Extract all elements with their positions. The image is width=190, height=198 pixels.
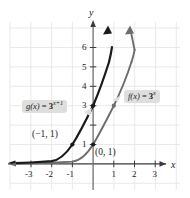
g-function-callout: g(x) = 3x+1 (22, 100, 67, 113)
x-axis-label: x (171, 160, 175, 170)
y-tick-label-6: 6 (82, 43, 87, 52)
f-function-callout: f(x) = 3x (124, 90, 160, 103)
x-tick-label-neg3: -3 (25, 170, 33, 179)
g-callout-eq: = (40, 101, 49, 111)
x-tick-label-neg1: -1 (67, 170, 75, 179)
exponential-functions-graph: -3 -2 -1 1 2 3 6 5 4 3 1 y x (−1, 1) (0,… (0, 0, 190, 198)
f-callout-eq: = (140, 91, 149, 101)
point-marker-f (91, 142, 95, 146)
point-label-neg1-1: (−1, 1) (32, 130, 58, 140)
point-marker-g (70, 142, 74, 146)
g-callout-exp: x+1 (53, 99, 63, 106)
x-tick-label-2: 2 (132, 170, 137, 179)
x-axis-arrow (160, 161, 167, 167)
curve-g-arrow (103, 26, 112, 35)
y-tick-label-5: 5 (82, 63, 87, 72)
f-callout-fn: f(x) (128, 91, 140, 101)
y-tick-label-1: 1 (82, 140, 87, 149)
y-axis-arrow (90, 20, 96, 27)
x-tick-label-1: 1 (112, 170, 117, 179)
x-tick-label-3: 3 (153, 170, 158, 179)
point-label-0-1: (0, 1) (95, 148, 116, 158)
curve-f-arrow (125, 26, 134, 35)
g-callout-fn: g(x) (26, 101, 40, 111)
f-callout-exp: x (153, 89, 156, 96)
point-marker-f-3 (112, 104, 116, 108)
y-tick-label-4: 4 (82, 82, 87, 91)
x-tick-label-neg2: -2 (46, 170, 54, 179)
point-marker-g-3 (91, 104, 95, 108)
y-axis-label: y (89, 8, 93, 18)
y-tick-label-3: 3 (82, 101, 87, 110)
